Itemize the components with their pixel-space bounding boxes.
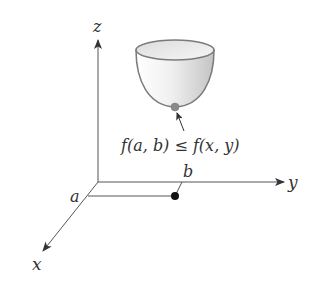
projection-lines (88, 182, 182, 196)
local-minimum-diagram: z y x a b f(a, b) ≤ f(x, y) (0, 0, 314, 282)
inequality-annotation: f(a, b) ≤ f(x, y) (120, 136, 240, 155)
base-point-ab (171, 192, 179, 200)
b-label: b (183, 162, 193, 181)
z-axis-label: z (92, 17, 102, 36)
a-label: a (70, 187, 80, 206)
bowl-surface (136, 40, 214, 107)
bowl-rim (136, 40, 214, 60)
y-axis-label: y (287, 172, 298, 192)
x-axis-label: x (32, 254, 42, 274)
minimum-point (171, 103, 179, 111)
annotation-arrow (177, 113, 184, 131)
diagram-canvas: z y x a b f(a, b) ≤ f(x, y) (0, 0, 314, 282)
